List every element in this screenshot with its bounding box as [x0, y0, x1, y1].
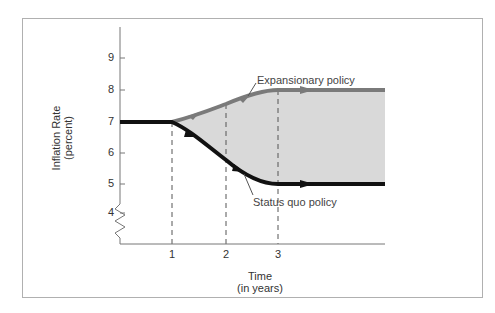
y-tick-9: 9 [100, 51, 114, 63]
y-tick-6: 6 [100, 146, 114, 158]
y-axis-label-line2: (percent) [62, 88, 74, 188]
x-axis-label: Time (in years) [220, 270, 300, 294]
y-tick-5: 5 [100, 177, 114, 189]
y-tick-4: 4 [100, 206, 114, 218]
status-quo-policy-annotation: Status quo policy [253, 196, 337, 208]
y-axis-label-line1: Inflation Rate [50, 88, 62, 188]
chart-plot [0, 0, 495, 313]
x-tick-1: 1 [165, 248, 179, 260]
x-tick-2: 2 [219, 248, 233, 260]
expansionary-policy-annotation: Expansionary policy [257, 74, 355, 86]
y-axis-label: Inflation Rate (percent) [50, 88, 74, 188]
x-axis-label-line2: (in years) [220, 282, 300, 294]
x-tick-3: 3 [271, 248, 285, 260]
x-axis-label-line1: Time [220, 270, 300, 282]
y-tick-7: 7 [100, 115, 114, 127]
y-tick-8: 8 [100, 83, 114, 95]
